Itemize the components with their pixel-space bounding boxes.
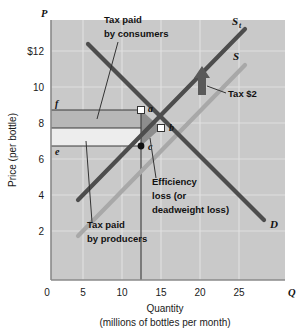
point-a-label: a: [148, 103, 153, 114]
chart-figure: a b c f e S t S D Tax $2 Tax paid by con…: [0, 0, 297, 333]
y-axis-symbol: P: [41, 8, 48, 19]
y-axis-title: Price (per bottle): [7, 113, 18, 187]
x-tick-label-25: 25: [233, 287, 245, 298]
y-tick-label-8: 8: [38, 118, 44, 129]
x-tick-label-0: 0: [44, 287, 50, 298]
y-tick-label-4: 4: [38, 190, 44, 201]
x-tick-label-20: 20: [194, 287, 206, 298]
curve-label-supply-after-tax: S: [232, 15, 238, 27]
tax-paid-by-consumers-label-line1: Tax paid: [104, 14, 142, 25]
tax-paid-by-consumers-label-line2: by consumers: [104, 28, 168, 39]
point-b-marker: [158, 125, 165, 132]
x-axis-subtitle: (millions of bottles per month): [99, 317, 230, 328]
x-axis-title: Quantity: [146, 303, 183, 314]
x-tick-label-15: 15: [155, 287, 167, 298]
y-tick-label-6: 6: [38, 154, 44, 165]
curve-label-supply: S: [233, 50, 239, 62]
tax-amount-label: Tax $2: [228, 88, 257, 99]
point-b-label: b: [169, 122, 174, 133]
x-tick-label-10: 10: [116, 287, 128, 298]
supply-demand-tax-diagram: a b c f e S t S D Tax $2 Tax paid by con…: [0, 0, 297, 333]
tax-paid-by-producers-label-line1: Tax paid: [87, 219, 125, 230]
efficiency-loss-label-line3: deadweight loss): [152, 204, 229, 215]
efficiency-loss-label-line2: loss (or: [152, 190, 187, 201]
y-tick-label-2: 2: [38, 226, 44, 237]
x-tick-label-5: 5: [80, 287, 86, 298]
tax-paid-by-producers-label-line2: by producers: [87, 233, 147, 244]
x-axis-symbol: Q: [288, 287, 296, 298]
point-e-label: e: [55, 146, 60, 157]
point-c-marker: [138, 143, 145, 150]
curve-label-demand: D: [269, 218, 278, 230]
region-tax-paid-by-producers: [51, 128, 141, 146]
y-tick-label-10: 10: [33, 82, 45, 93]
y-tick-label-12: $12: [27, 46, 44, 57]
region-tax-paid-by-consumers: [51, 110, 141, 128]
point-a-marker: [138, 107, 145, 114]
efficiency-loss-label-line1: Efficiency: [152, 176, 198, 187]
